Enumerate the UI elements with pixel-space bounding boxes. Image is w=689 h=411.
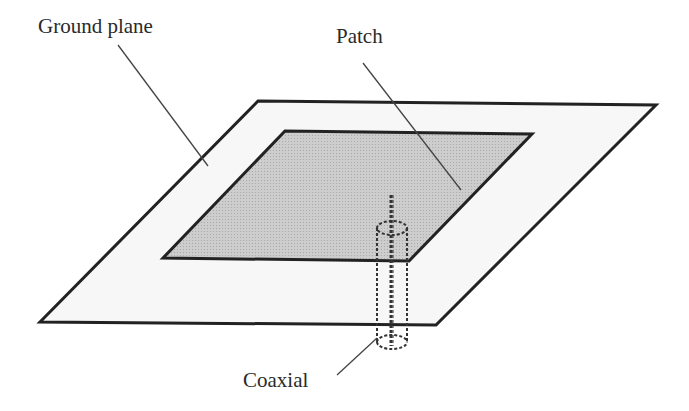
ground-plane-leader [118,45,208,166]
coaxial-leader [337,338,377,375]
coaxial-label: Coaxial [243,368,308,392]
ground-plane-label: Ground plane [38,14,153,38]
patch-antenna-diagram: Ground plane Patch Coaxial [0,0,689,411]
patch-label: Patch [336,24,383,48]
